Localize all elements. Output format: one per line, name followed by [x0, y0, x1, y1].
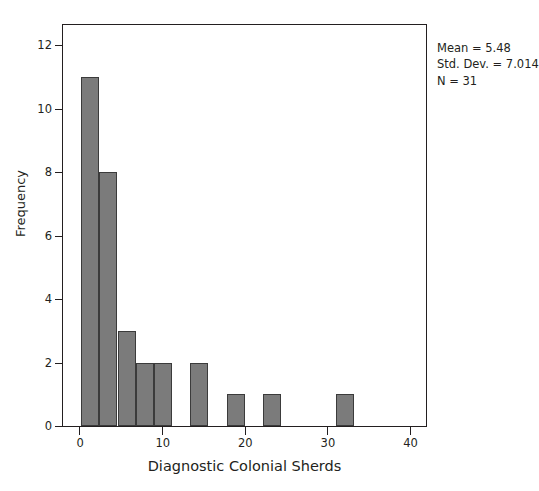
stat-n: N = 31: [437, 73, 539, 89]
histogram-bar: [118, 331, 136, 426]
x-axis-tick: [79, 427, 80, 435]
x-axis-tick-label: 20: [238, 438, 253, 450]
plot-area: [62, 24, 427, 427]
y-axis-tick: [55, 299, 62, 300]
y-axis-tick-label: 2: [45, 358, 52, 370]
y-axis-tick-label: 4: [45, 294, 52, 306]
histogram-bar: [81, 77, 99, 426]
y-axis-tick: [55, 363, 62, 364]
y-axis: Frequency 024681012: [0, 0, 62, 491]
histogram-bar: [136, 363, 154, 426]
stat-mean: Mean = 5.48: [437, 40, 539, 56]
x-axis-title: Diagnostic Colonial Sherds: [62, 458, 427, 474]
x-axis-tick: [327, 427, 328, 435]
x-axis-tick-label: 30: [321, 438, 336, 450]
y-axis-tick-label: 8: [45, 167, 52, 179]
y-axis-tick-label: 6: [45, 231, 52, 243]
y-axis-tick-label: 12: [37, 40, 52, 52]
y-axis-tick-label: 10: [37, 104, 52, 116]
y-axis-tick: [55, 236, 62, 237]
histogram-bar: [99, 172, 117, 426]
histogram-bar: [336, 394, 354, 426]
x-axis: Diagnostic Colonial Sherds 010203040: [0, 427, 535, 491]
x-axis-tick: [245, 427, 246, 435]
x-axis-tick-label: 10: [155, 438, 170, 450]
histogram-bar: [154, 363, 172, 426]
y-axis-tick: [55, 172, 62, 173]
histogram-bar: [263, 394, 281, 426]
histogram-bar: [190, 363, 208, 426]
x-axis-tick: [162, 427, 163, 435]
x-axis-tick-label: 40: [403, 438, 418, 450]
x-axis-tick-label: 0: [76, 438, 83, 450]
y-axis-tick: [55, 109, 62, 110]
y-axis-tick: [55, 45, 62, 46]
stat-std-dev: Std. Dev. = 7.014: [437, 56, 539, 72]
bars-container: [63, 25, 426, 426]
histogram-bar: [227, 394, 245, 426]
x-axis-tick: [410, 427, 411, 435]
y-axis-title: Frequency: [13, 124, 28, 284]
stats-annotation: Mean = 5.48 Std. Dev. = 7.014 N = 31: [437, 40, 539, 89]
